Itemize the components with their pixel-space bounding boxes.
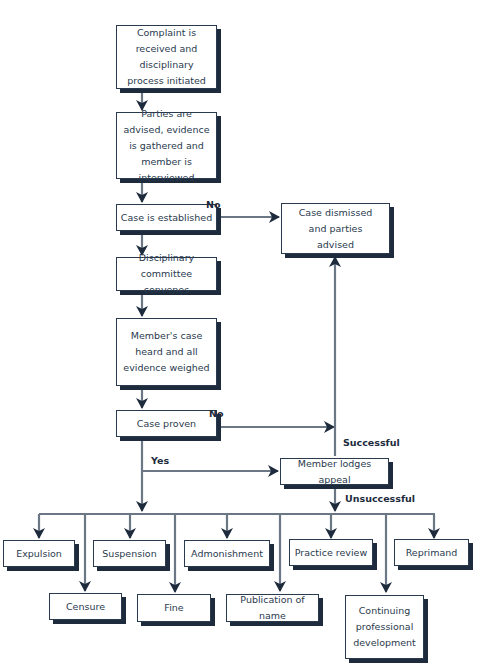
node-case-heard: Member's case heard and all evidence wei… <box>116 318 217 386</box>
node-suspension: Suspension <box>93 540 166 567</box>
node-admonishment: Admonishment <box>184 540 270 567</box>
label-established-no: No <box>206 199 220 210</box>
node-reprimand: Reprimand <box>394 539 469 566</box>
node-parties: Parties are advised, evidence is gathere… <box>116 112 217 179</box>
node-expulsion: Expulsion <box>3 540 75 567</box>
node-committee-convenes: Disciplinary committee convenes <box>116 257 217 291</box>
node-fine: Fine <box>137 594 211 622</box>
node-case-proven: Case proven <box>116 410 217 437</box>
node-member-appeal: Member lodges appeal <box>280 458 389 485</box>
node-complaint: Complaint is received and disciplinary p… <box>116 25 217 89</box>
node-practice-review: Practice review <box>289 539 373 566</box>
node-publication-of-name: Publication of name <box>226 594 319 622</box>
label-proven-no: No <box>209 408 223 419</box>
label-appeal-unsuccessful: Unsuccessful <box>345 493 415 504</box>
label-proven-yes: Yes <box>151 455 169 466</box>
node-cpd: Continuing professional development <box>345 595 424 659</box>
node-case-dismissed: Case dismissed and parties advised <box>281 203 390 254</box>
node-censure: Censure <box>49 593 122 620</box>
node-case-established: Case is established <box>116 204 217 231</box>
label-appeal-successful: Successful <box>343 437 400 448</box>
